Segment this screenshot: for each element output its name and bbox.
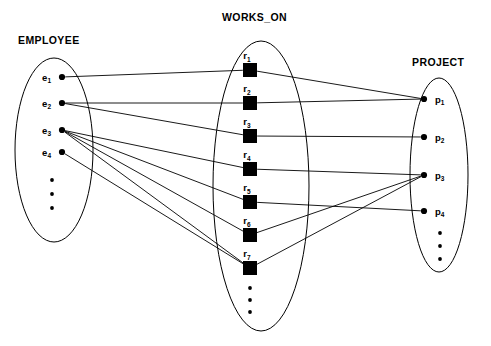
node-r4 <box>243 162 257 176</box>
vertical-ellipsis-dot-employee-3 <box>50 206 54 210</box>
node-sublabel-r4: 4 <box>247 155 251 162</box>
node-p3 <box>421 172 427 178</box>
diagram-canvas: EMPLOYEEWORKS_ONPROJECTe1e2e3e4r1r2r3r4r… <box>0 0 491 346</box>
node-label-e3: e3 <box>42 125 51 138</box>
node-label-e2: e2 <box>42 98 51 111</box>
node-r2 <box>243 96 257 110</box>
node-label-p1: p1 <box>435 94 445 107</box>
node-e1 <box>59 74 65 80</box>
vertical-ellipsis-dot-works_on-1 <box>248 286 252 290</box>
node-label-r4: r4 <box>243 149 251 162</box>
node-e2 <box>59 100 65 106</box>
node-label-r7: r7 <box>243 248 251 261</box>
edges-layer <box>65 70 422 264</box>
node-sublabel-e2: 2 <box>47 103 51 110</box>
edge-r1-p1 <box>257 71 421 98</box>
node-label-e1: e1 <box>42 72 51 85</box>
set-title-employee: EMPLOYEE <box>18 34 80 46</box>
node-p2 <box>421 134 427 140</box>
edge-r5-p4 <box>257 202 421 210</box>
set-oval-works_on <box>213 41 309 331</box>
vertical-ellipsis-dot-project-3 <box>438 257 442 261</box>
node-r6 <box>243 228 257 242</box>
edge-r2-p1 <box>257 99 421 103</box>
node-sublabel-e1: 1 <box>47 77 51 84</box>
node-sublabel-p4: 4 <box>441 211 445 218</box>
edge-e4-r7 <box>65 154 244 265</box>
vertical-ellipsis-dot-project-1 <box>438 231 442 235</box>
set-ovals-layer: EMPLOYEEWORKS_ONPROJECT <box>15 11 468 331</box>
edge-e3-r5 <box>65 131 243 199</box>
edge-r6-p3 <box>257 176 421 233</box>
edge-r4-p3 <box>257 169 421 175</box>
edge-r3-p2 <box>257 136 421 137</box>
er-mapping-diagram: EMPLOYEEWORKS_ONPROJECTe1e2e3e4r1r2r3r4r… <box>0 0 491 346</box>
node-label-r1: r1 <box>243 50 251 63</box>
node-label-r3: r3 <box>243 116 251 129</box>
node-p4 <box>421 208 427 214</box>
set-title-project: PROJECT <box>412 56 465 68</box>
nodes-layer: e1e2e3e4r1r2r3r4r5r6r7p1p2p3p4 <box>42 50 445 314</box>
vertical-ellipsis-dot-works_on-3 <box>248 310 252 314</box>
node-label-p2: p2 <box>435 132 445 145</box>
node-label-e4: e4 <box>42 147 51 160</box>
node-e3 <box>59 127 65 133</box>
node-sublabel-r6: 6 <box>247 221 251 228</box>
node-label-p3: p3 <box>435 170 445 183</box>
vertical-ellipsis-dot-employee-1 <box>50 178 54 182</box>
node-sublabel-e4: 4 <box>47 152 51 159</box>
node-sublabel-r5: 5 <box>247 188 251 195</box>
node-label-r5: r5 <box>243 182 251 195</box>
set-title-works_on: WORKS_ON <box>222 11 287 23</box>
node-sublabel-e3: 3 <box>47 130 51 137</box>
node-sublabel-r1: 1 <box>247 56 251 63</box>
edge-e3-r7 <box>65 132 245 264</box>
node-sublabel-r7: 7 <box>247 254 251 261</box>
node-sublabel-r2: 2 <box>247 89 251 96</box>
node-r7 <box>243 261 257 275</box>
vertical-ellipsis-dot-works_on-2 <box>248 298 252 302</box>
vertical-ellipsis-dot-employee-2 <box>50 192 54 196</box>
node-e4 <box>59 149 65 155</box>
node-sublabel-r3: 3 <box>247 122 251 129</box>
node-label-r2: r2 <box>243 83 251 96</box>
node-r1 <box>243 63 257 77</box>
vertical-ellipsis-dot-project-2 <box>438 244 442 248</box>
set-oval-employee <box>15 58 93 242</box>
edge-e1-r1 <box>65 70 243 77</box>
node-sublabel-p2: 2 <box>441 137 445 144</box>
edge-e3-r4 <box>65 131 243 168</box>
node-sublabel-p3: 3 <box>441 175 445 182</box>
node-sublabel-p1: 1 <box>441 99 445 106</box>
edge-r7-p3 <box>256 177 421 265</box>
node-r3 <box>243 129 257 143</box>
node-r5 <box>243 195 257 209</box>
edge-e3-r6 <box>65 132 244 232</box>
node-label-p4: p4 <box>435 206 445 219</box>
node-label-r6: r6 <box>243 215 251 228</box>
node-p1 <box>421 96 427 102</box>
